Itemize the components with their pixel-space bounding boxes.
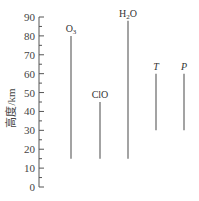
y-tick-label: 10 — [24, 162, 36, 174]
y-tick-label: 60 — [24, 68, 36, 80]
y-tick-label: 0 — [30, 181, 36, 193]
y-tick-label: 70 — [24, 49, 36, 61]
y-tick-label: 80 — [24, 30, 36, 42]
series-label: O3 — [66, 23, 77, 36]
series-t: T — [153, 61, 160, 131]
y-tick-label: 30 — [24, 124, 36, 136]
series-label: T — [153, 61, 160, 72]
y-axis-title: 高度/km — [4, 88, 17, 128]
y-tick-label: 20 — [24, 143, 36, 155]
y-axis: 0102030405060708090 — [24, 11, 44, 193]
y-tick-label: 50 — [24, 87, 36, 99]
series-group: O3ClOH2OTP — [66, 8, 187, 159]
altitude-range-chart: 0102030405060708090 高度/km O3ClOH2OTP — [0, 0, 199, 201]
series-label: P — [180, 61, 187, 72]
y-tick-label: 90 — [24, 11, 36, 23]
series-clo: ClO — [92, 89, 109, 159]
series-h2o: H2O — [119, 8, 137, 159]
series-p: P — [180, 61, 187, 131]
series-label: ClO — [92, 89, 109, 100]
y-tick-label: 40 — [24, 105, 36, 117]
series-o3: O3 — [66, 23, 77, 159]
series-label: H2O — [119, 8, 137, 21]
